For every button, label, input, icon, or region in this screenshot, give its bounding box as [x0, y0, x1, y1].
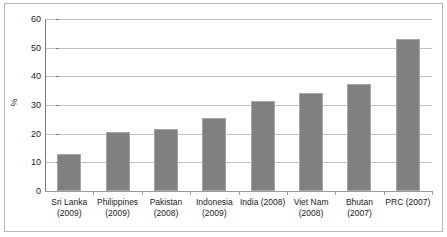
x-axis-tick-label: Indonesia (2009) — [190, 197, 238, 219]
y-axis-tick-labels: 0102030405060 — [14, 0, 41, 237]
x-axis-tick-mark — [432, 191, 433, 195]
x-axis-tick-label: Sri Lanka (2009) — [45, 197, 93, 219]
bar — [57, 154, 81, 191]
x-axis-tick-mark — [142, 191, 143, 195]
bar — [396, 39, 420, 192]
x-axis-tick-label: Philippines (2009) — [93, 197, 141, 219]
bar — [251, 101, 275, 191]
x-axis-tick-mark — [384, 191, 385, 195]
bar-slot — [239, 19, 287, 191]
bar-slot — [190, 19, 238, 191]
bar-slot — [287, 19, 335, 191]
x-axis-tick-label: India (2008) — [239, 197, 287, 208]
x-axis-tick-label: Bhutan (2007) — [335, 197, 383, 219]
bar-slot — [335, 19, 383, 191]
x-axis-tick-mark — [239, 191, 240, 195]
x-axis-tick-mark — [190, 191, 191, 195]
y-axis-tick-label: 40 — [31, 72, 41, 81]
bar — [202, 118, 226, 191]
y-axis-tick-label: 30 — [31, 101, 41, 110]
x-axis-tick-mark — [93, 191, 94, 195]
x-axis-tick-mark — [287, 191, 288, 195]
bar-slot — [142, 19, 190, 191]
x-axis-tick-label: Pakistan (2008) — [142, 197, 190, 219]
bar-slot — [93, 19, 141, 191]
x-axis-tick-labels: Sri Lanka (2009)Philippines (2009)Pakist… — [45, 197, 432, 231]
x-axis-tick-mark — [335, 191, 336, 195]
chart-figure: 0102030405060 % Sri Lanka (2009)Philippi… — [0, 0, 447, 237]
y-axis-title: % — [10, 98, 19, 106]
y-axis-tick-label: 10 — [31, 158, 41, 167]
bar-slot — [384, 19, 432, 191]
bar — [299, 93, 323, 191]
bar — [347, 84, 371, 191]
bar-slot — [45, 19, 93, 191]
x-axis-tick-label: Viet Nam (2008) — [287, 197, 335, 219]
bar-series — [45, 19, 432, 191]
bar — [106, 132, 130, 191]
x-axis-tick-label: PRC (2007) — [384, 197, 432, 208]
y-axis-tick-label: 50 — [31, 43, 41, 52]
y-axis-tick-label: 60 — [31, 15, 41, 24]
y-axis-tick-label: 0 — [36, 187, 41, 196]
y-axis-tick-label: 20 — [31, 129, 41, 138]
bar — [154, 129, 178, 191]
